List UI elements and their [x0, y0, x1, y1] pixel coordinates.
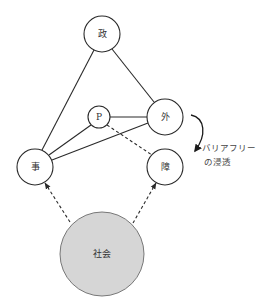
- node-p-label: P: [96, 112, 102, 122]
- edges: [42, 49, 156, 223]
- node-p: P: [88, 106, 110, 128]
- edge-p-ji: [49, 125, 91, 155]
- node-sei: 政: [84, 16, 120, 52]
- node-shakai: 社会: [60, 212, 144, 296]
- node-shakai-label: 社会: [93, 248, 111, 259]
- edge-sei-ji: [42, 50, 94, 150]
- annotation-line-2: の浸透: [204, 157, 231, 167]
- node-sho-label: 障: [161, 161, 170, 172]
- node-gai-label: 外: [161, 111, 170, 122]
- annotation-line-1: バリアフリー: [202, 143, 256, 153]
- node-ji: 事: [17, 149, 53, 185]
- node-sho: 障: [147, 149, 183, 185]
- node-ji-label: 事: [31, 161, 40, 172]
- edge-shakai-ji: [45, 183, 70, 222]
- node-sei-label: 政: [98, 28, 107, 39]
- edge-sei-gai: [112, 49, 154, 102]
- edge-gai-ji: [52, 123, 148, 160]
- edge-shakai-sho: [133, 183, 156, 223]
- barrier-free-diagram: 政 P 外 事 障 社会 バリアフリー の浸透: [0, 0, 264, 304]
- edge-p-sho: [107, 125, 152, 155]
- node-gai: 外: [147, 99, 183, 135]
